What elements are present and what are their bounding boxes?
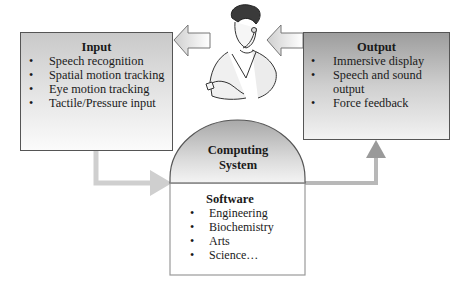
computing-to-output-connector [305, 140, 386, 183]
person-with-headset-icon [206, 5, 276, 100]
software-section: Software Engineering Biochemistry Arts S… [188, 192, 298, 262]
output-list: Immersive display Speech and sound outpu… [304, 54, 449, 110]
software-title: Software [188, 192, 298, 206]
software-item: Arts [188, 234, 298, 248]
input-box: Input Speech recognition Spatial motion … [20, 32, 173, 151]
software-list: Engineering Biochemistry Arts Science… [188, 206, 298, 262]
output-item: Immersive display [304, 54, 449, 68]
input-title: Input [21, 40, 172, 54]
computing-system-title: Computing System [170, 143, 306, 173]
input-item: Eye motion tracking [21, 82, 172, 96]
input-item: Tactile/Pressure input [21, 96, 172, 110]
computing-title-line1: Computing [170, 143, 306, 158]
left-arrow-icon [267, 25, 303, 56]
input-item: Spatial motion tracking [21, 68, 172, 82]
input-item: Speech recognition [21, 54, 172, 68]
output-item: Force feedback [304, 96, 449, 110]
left-arrow-icon [174, 25, 210, 56]
output-title: Output [304, 40, 449, 54]
output-item: Speech and sound output [304, 68, 449, 96]
software-item: Science… [188, 248, 298, 262]
software-item: Biochemistry [188, 220, 298, 234]
computing-title-line2: System [170, 158, 306, 173]
software-item: Engineering [188, 206, 298, 220]
input-list: Speech recognition Spatial motion tracki… [21, 54, 172, 110]
output-box: Output Immersive display Speech and soun… [303, 32, 450, 140]
input-to-computing-connector [96, 151, 172, 196]
